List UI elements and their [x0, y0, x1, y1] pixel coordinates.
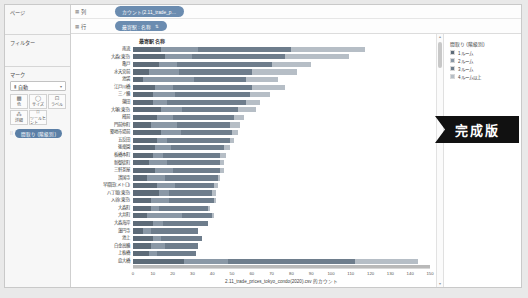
table-row[interactable] — [133, 121, 430, 129]
bar-segment[interactable] — [238, 107, 256, 112]
label-button[interactable]: ⊡ ラベル — [48, 94, 66, 109]
table-row[interactable] — [133, 136, 430, 144]
bar-segment[interactable] — [167, 100, 246, 105]
stacked-bar[interactable] — [133, 259, 418, 264]
bar-segment[interactable] — [228, 259, 355, 264]
bar-segment[interactable] — [163, 153, 220, 158]
table-row[interactable] — [133, 53, 430, 61]
bar-segment[interactable] — [133, 160, 149, 165]
table-row[interactable] — [133, 83, 430, 91]
bar-segment[interactable] — [147, 175, 165, 180]
stacked-bar[interactable] — [133, 153, 226, 158]
vertical-scrollbar[interactable]: ▴ ▾ — [436, 34, 443, 287]
table-row[interactable] — [133, 242, 430, 250]
bar-segment[interactable] — [246, 100, 260, 105]
table-row[interactable] — [133, 151, 430, 159]
stacked-bar[interactable] — [133, 85, 285, 90]
bar-segment[interactable] — [153, 100, 167, 105]
filters-card[interactable]: フィルター — [5, 35, 70, 67]
bar-segment[interactable] — [252, 85, 286, 90]
stacked-bar[interactable] — [133, 168, 224, 173]
table-row[interactable] — [133, 114, 430, 122]
bar-segment[interactable] — [230, 122, 240, 127]
bar-segment[interactable] — [133, 198, 151, 203]
rows-shelf-dropzone[interactable]: 最寄駅 : 名称 ⇅ — [113, 21, 521, 31]
stacked-bar[interactable] — [133, 228, 198, 233]
legend-item[interactable]: 2ルーム — [450, 58, 517, 64]
columns-pill[interactable]: カウント(2.11_trade_p… — [115, 6, 184, 16]
bar-segment[interactable] — [198, 47, 291, 52]
bar-segment[interactable] — [153, 153, 163, 158]
bar-segment[interactable] — [151, 228, 199, 233]
sort-ascending-icon[interactable]: ⇅ — [155, 24, 159, 29]
bar-segment[interactable] — [133, 168, 155, 173]
stacked-bar[interactable] — [133, 213, 214, 218]
bar-segment[interactable] — [177, 122, 230, 127]
table-row[interactable] — [133, 46, 430, 54]
bar-segment[interactable] — [171, 145, 224, 150]
bar-segment[interactable] — [159, 206, 208, 211]
rows-pill[interactable]: 最寄駅 : 名称 ⇅ — [115, 21, 167, 31]
bar-segment[interactable] — [133, 228, 143, 233]
bar-segment[interactable] — [133, 107, 161, 112]
bar-segment[interactable] — [133, 122, 151, 127]
table-row[interactable] — [133, 212, 430, 220]
bar-segment[interactable] — [133, 213, 147, 218]
table-row[interactable] — [133, 174, 430, 182]
stacked-bar[interactable] — [133, 92, 270, 97]
bar-segment[interactable] — [165, 243, 199, 248]
bar-segment[interactable] — [173, 85, 252, 90]
bar-segment[interactable] — [212, 190, 216, 195]
bar-segment[interactable] — [133, 69, 149, 74]
bar-segment[interactable] — [181, 130, 232, 135]
scroll-down-icon[interactable]: ▾ — [439, 282, 441, 286]
bar-segment[interactable] — [182, 107, 237, 112]
bar-segment[interactable] — [155, 168, 173, 173]
bar-segment[interactable] — [179, 69, 252, 74]
bar-segment[interactable] — [159, 190, 169, 195]
bar-segment[interactable] — [151, 206, 159, 211]
table-row[interactable] — [133, 106, 430, 114]
stacked-bar[interactable] — [133, 47, 365, 52]
bar-segment[interactable] — [214, 183, 218, 188]
stacked-bar[interactable] — [133, 251, 196, 256]
stacked-bar[interactable] — [133, 54, 349, 59]
table-row[interactable] — [133, 76, 430, 84]
stacked-bar[interactable] — [133, 221, 208, 226]
bar-segment[interactable] — [355, 259, 418, 264]
bar-segment[interactable] — [133, 130, 161, 135]
bar-segment[interactable] — [173, 168, 221, 173]
stacked-bar[interactable] — [133, 206, 210, 211]
bar-segment[interactable] — [220, 153, 226, 158]
tooltip-button[interactable]: ⌑ ツールヒント — [29, 110, 47, 125]
bar-segment[interactable] — [157, 251, 197, 256]
table-row[interactable] — [133, 204, 430, 212]
marks-color-pill[interactable]: 間取り (階級別) — [15, 129, 62, 138]
stacked-bar[interactable] — [133, 190, 216, 195]
columns-shelf[interactable]: ▦ 列 カウント(2.11_trade_p… — [71, 5, 521, 19]
columns-shelf-dropzone[interactable]: カウント(2.11_trade_p… — [113, 6, 521, 16]
bar-segment[interactable] — [143, 77, 194, 82]
bar-segment[interactable] — [133, 183, 157, 188]
bar-segment[interactable] — [157, 138, 167, 143]
bar-segment[interactable] — [133, 85, 155, 90]
bar-segment[interactable] — [133, 175, 147, 180]
stacked-bar[interactable] — [133, 62, 311, 67]
stacked-bar[interactable] — [133, 115, 244, 120]
bar-segment[interactable] — [143, 228, 151, 233]
pages-card[interactable]: ページ — [5, 5, 70, 35]
size-button[interactable]: ◯ サイズ — [29, 94, 47, 109]
bar-segment[interactable] — [153, 221, 163, 226]
bar-segment[interactable] — [133, 221, 153, 226]
bar-segment[interactable] — [250, 92, 270, 97]
bar-segment[interactable] — [208, 206, 210, 211]
table-row[interactable] — [133, 144, 430, 152]
legend-item[interactable]: 4ルーム以上 — [450, 74, 517, 80]
bar-segment[interactable] — [155, 145, 171, 150]
bar-segment[interactable] — [157, 115, 173, 120]
table-row[interactable] — [133, 250, 430, 258]
bar-segment[interactable] — [133, 145, 155, 150]
table-row[interactable] — [133, 98, 430, 106]
bar-segment[interactable] — [147, 213, 183, 218]
table-row[interactable] — [133, 129, 430, 137]
